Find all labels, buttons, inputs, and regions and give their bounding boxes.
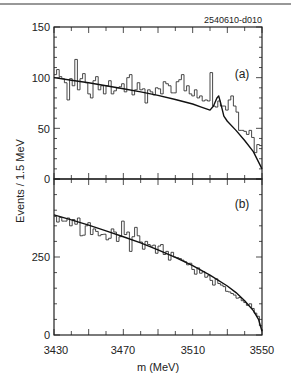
ytick-a-150: 150: [32, 21, 50, 33]
fit-curve-a: [54, 78, 262, 169]
histogram-a: [54, 59, 262, 152]
x-axis-label: m (MeV): [137, 361, 179, 373]
xtick-3510: 3510: [181, 344, 205, 356]
figure: 2540610-d010 (a) (b) 150 100 50 0 250 0 …: [0, 0, 291, 386]
panel-a-label: (a): [235, 67, 250, 81]
histogram-b: [54, 216, 262, 325]
figure-id-label: 2540610-d010: [204, 15, 262, 25]
ytick-a-100: 100: [32, 72, 50, 84]
ytick-b-0: 0: [44, 329, 50, 341]
panel-a-frame: [54, 27, 262, 179]
ytick-a-0: 0: [44, 173, 50, 185]
histograms: [54, 59, 262, 325]
xtick-3430: 3430: [44, 344, 68, 356]
ytick-b-250: 250: [32, 251, 50, 263]
xtick-3470: 3470: [111, 344, 135, 356]
y-axis-label: Events / 1.5 MeV: [14, 138, 26, 222]
panel-b-label: (b): [235, 197, 250, 211]
xtick-3550: 3550: [250, 344, 274, 356]
panel-b-frame: [54, 179, 262, 335]
ytick-a-50: 50: [38, 123, 50, 135]
